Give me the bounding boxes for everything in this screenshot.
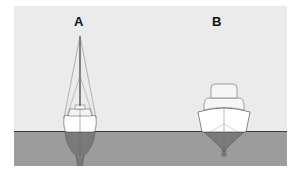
diagram-panel: A B — [14, 6, 287, 166]
motorboat-b-icon — [14, 6, 287, 166]
